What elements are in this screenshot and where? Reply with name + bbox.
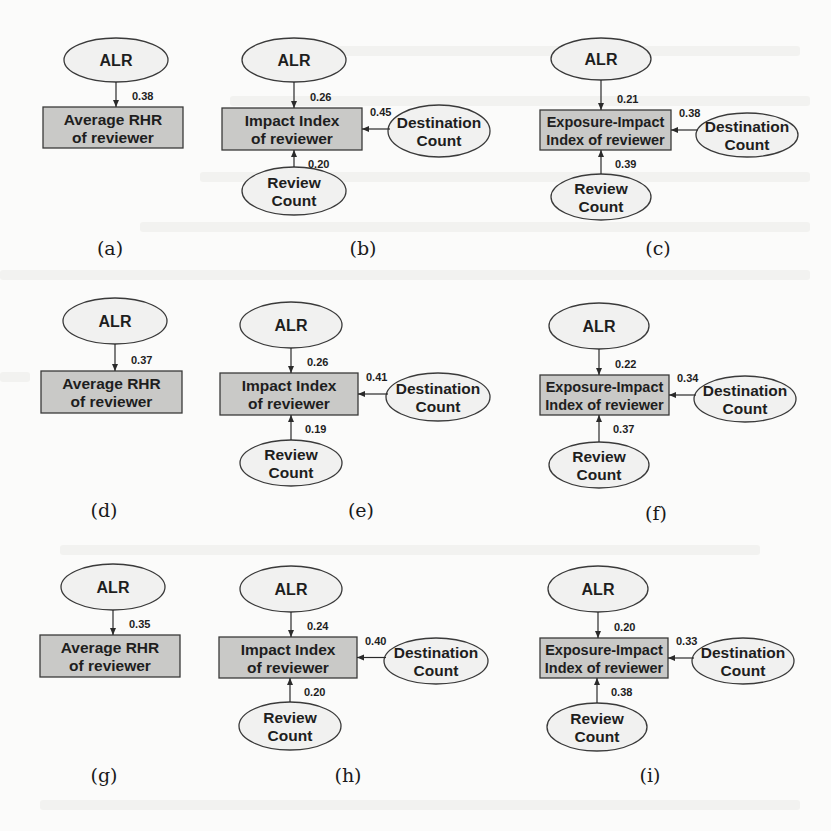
destination-coefficient: 0.41 xyxy=(366,371,387,383)
alr-coefficient: 0.38 xyxy=(132,90,153,102)
review-count-label-line2: Count xyxy=(269,464,314,481)
review-count-label-line2: Count xyxy=(272,192,317,209)
destination-count-node xyxy=(388,105,490,157)
review-coefficient: 0.20 xyxy=(304,686,325,698)
outcome-node-label-line2: Index of reviewer xyxy=(545,660,664,676)
outcome-node-label-line2: Index of reviewer xyxy=(546,132,665,148)
review-count-label-line1: Review xyxy=(570,710,624,727)
destination-coefficient: 0.40 xyxy=(365,635,386,647)
review-count-label-line2: Count xyxy=(575,728,620,745)
destination-coefficient: 0.45 xyxy=(370,106,391,118)
destination-count-label-line1: Destination xyxy=(703,382,787,399)
panel-h: ALRImpact Indexof reviewer0.24Destinatio… xyxy=(219,566,488,786)
panel-i: ALRExposure-ImpactIndex of reviewer0.20D… xyxy=(540,566,794,786)
destination-count-label-line1: Destination xyxy=(397,114,481,131)
outcome-node-label-line1: Impact Index xyxy=(241,641,336,658)
destination-count-label-line1: Destination xyxy=(394,644,478,661)
panel-a: ALRAverage RHRof reviewer0.38(a) xyxy=(43,38,183,259)
path-diagram-figure: ALRAverage RHRof reviewer0.38(a)ALRImpac… xyxy=(0,0,831,831)
review-count-label-line2: Count xyxy=(577,466,622,483)
panel-caption: (i) xyxy=(640,764,661,786)
review-coefficient: 0.39 xyxy=(615,158,636,170)
panel-c: ALRExposure-ImpactIndex of reviewer0.21D… xyxy=(540,38,798,259)
review-count-label-line1: Review xyxy=(263,709,317,726)
review-count-label-line1: Review xyxy=(264,446,318,463)
alr-node-label: ALR xyxy=(275,581,308,598)
outcome-node-label-line1: Impact Index xyxy=(242,377,337,394)
outcome-node-label-line1: Average RHR xyxy=(61,639,160,656)
alr-node-label: ALR xyxy=(278,52,311,69)
alr-node-label: ALR xyxy=(275,317,308,334)
panel-e: ALRImpact Indexof reviewer0.26Destinatio… xyxy=(220,302,490,521)
outcome-node-label-line2: of reviewer xyxy=(247,659,329,676)
panel-caption: (e) xyxy=(348,499,374,521)
outcome-node-label-line2: of reviewer xyxy=(72,129,154,146)
review-count-label-line1: Review xyxy=(572,448,626,465)
destination-count-label-line1: Destination xyxy=(705,118,789,135)
outcome-node-label-line2: of reviewer xyxy=(71,393,153,410)
destination-count-label-line2: Count xyxy=(414,662,459,679)
alr-node-label: ALR xyxy=(99,313,132,330)
outcome-node-label-line1: Average RHR xyxy=(62,375,161,392)
alr-coefficient: 0.26 xyxy=(307,356,328,368)
panel-g: ALRAverage RHRof reviewer0.35(g) xyxy=(40,564,180,786)
destination-coefficient: 0.34 xyxy=(677,372,699,384)
panel-caption: (b) xyxy=(350,237,377,259)
review-coefficient: 0.20 xyxy=(308,158,329,170)
outcome-node-label-line2: of reviewer xyxy=(248,395,330,412)
alr-coefficient: 0.20 xyxy=(614,621,635,633)
destination-count-label-line2: Count xyxy=(725,136,770,153)
alr-coefficient: 0.26 xyxy=(310,91,331,103)
review-count-label-line1: Review xyxy=(574,180,628,197)
outcome-node-label-line1: Average RHR xyxy=(64,111,163,128)
alr-coefficient: 0.35 xyxy=(129,618,150,630)
destination-count-label-line1: Destination xyxy=(396,380,480,397)
destination-count-label-line2: Count xyxy=(416,398,461,415)
destination-count-label-line2: Count xyxy=(417,132,462,149)
review-count-label-line2: Count xyxy=(268,727,313,744)
outcome-node-label-line1: Exposure-Impact xyxy=(546,379,664,395)
panel-caption: (h) xyxy=(334,764,361,786)
alr-node-label: ALR xyxy=(97,579,130,596)
panel-f: ALRExposure-ImpactIndex of reviewer0.22D… xyxy=(540,303,796,524)
panel-caption: (c) xyxy=(645,237,670,259)
alr-node-label: ALR xyxy=(582,581,615,598)
outcome-node-label-line2: Index of reviewer xyxy=(545,397,664,413)
panel-d: ALRAverage RHRof reviewer0.37(d) xyxy=(41,298,182,521)
alr-coefficient: 0.21 xyxy=(617,93,638,105)
review-count-label-line2: Count xyxy=(579,198,624,215)
alr-node-label: ALR xyxy=(583,318,616,335)
alr-node-label: ALR xyxy=(585,51,618,68)
panel-caption: (f) xyxy=(645,502,667,524)
outcome-node-label-line1: Exposure-Impact xyxy=(547,114,665,130)
alr-coefficient: 0.22 xyxy=(615,358,636,370)
outcome-node-label-line1: Exposure-Impact xyxy=(545,642,663,658)
destination-count-label-line2: Count xyxy=(721,662,766,679)
review-coefficient: 0.19 xyxy=(305,423,326,435)
alr-coefficient: 0.37 xyxy=(131,354,152,366)
outcome-node-label-line1: Impact Index xyxy=(245,112,340,129)
destination-count-label-line1: Destination xyxy=(701,644,785,661)
review-count-label-line1: Review xyxy=(267,174,321,191)
panel-caption: (a) xyxy=(97,237,123,259)
panel-caption: (g) xyxy=(91,764,118,786)
destination-coefficient: 0.33 xyxy=(676,635,697,647)
destination-coefficient: 0.38 xyxy=(679,107,700,119)
alr-coefficient: 0.24 xyxy=(307,620,329,632)
panel-caption: (d) xyxy=(91,499,118,521)
panel-b: ALRImpact Indexof reviewer0.26Destinatio… xyxy=(222,38,490,259)
alr-node-label: ALR xyxy=(100,52,133,69)
review-coefficient: 0.37 xyxy=(613,423,634,435)
review-coefficient: 0.38 xyxy=(611,686,632,698)
outcome-node-label-line2: of reviewer xyxy=(69,657,151,674)
outcome-node-label-line2: of reviewer xyxy=(251,130,333,147)
destination-count-label-line2: Count xyxy=(723,400,768,417)
